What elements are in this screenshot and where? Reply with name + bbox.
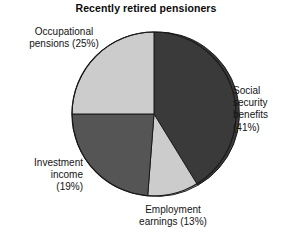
slice-label-occupational-pensions-line1: Occupational — [12, 26, 116, 38]
slice-label-investment-income: Investment income (19%) — [0, 157, 83, 194]
slice-label-employment-earnings-line2: earnings (13%) — [118, 216, 228, 228]
slice-label-social-security-benefits-line4: (41%) — [233, 122, 291, 134]
slice-label-occupational-pensions: Occupational pensions (25%) — [12, 26, 116, 50]
slice-label-employment-earnings: Employment earnings (13%) — [118, 204, 228, 228]
pie-slice-investment-income — [72, 114, 154, 196]
slice-label-investment-income-line3: (19%) — [0, 181, 83, 193]
slice-label-social-security-benefits: Social security benefits (41%) — [233, 85, 291, 134]
slice-label-social-security-benefits-line1: Social — [233, 85, 291, 97]
slice-label-employment-earnings-line1: Employment — [118, 204, 228, 216]
pie-chart-figure: Recently retired pensioners Occupational… — [0, 0, 292, 248]
slice-label-social-security-benefits-line3: benefits — [233, 109, 291, 121]
slice-label-investment-income-line2: income — [0, 169, 83, 181]
slice-label-social-security-benefits-line2: security — [233, 97, 291, 109]
slice-label-investment-income-line1: Investment — [0, 157, 83, 169]
slice-label-occupational-pensions-line2: pensions (25%) — [12, 38, 116, 50]
